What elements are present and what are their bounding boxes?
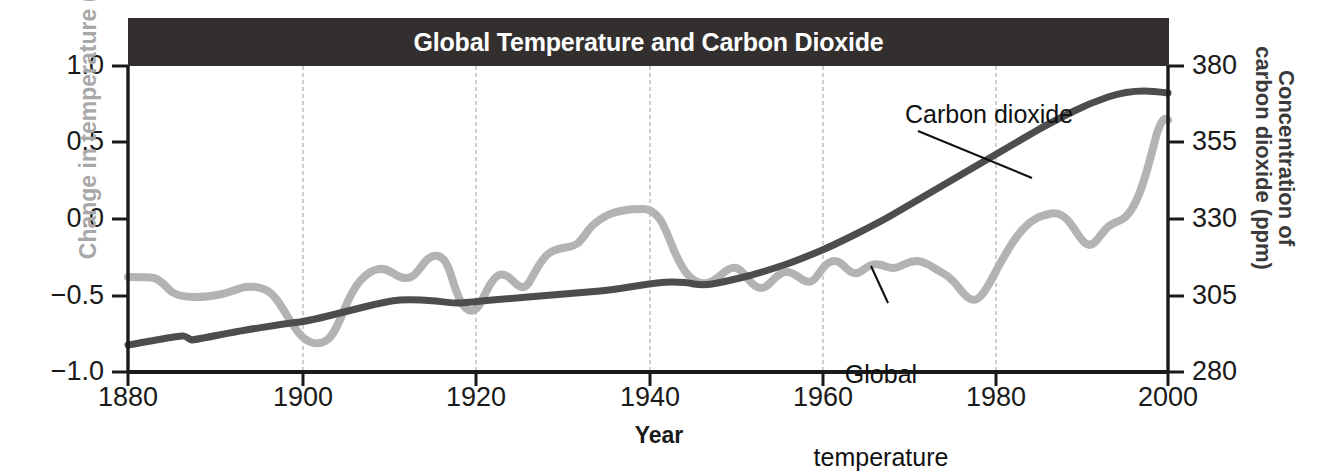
xtick-label-1: 1900 — [243, 382, 363, 413]
chart-title-bar: Global Temperature and Carbon Dioxide — [128, 18, 1169, 66]
y-axis-label-right-line1: Concentration of — [1275, 43, 1298, 273]
leader-line-co2 — [918, 131, 1032, 178]
y-axis-label-right: Concentration of carbon dioxide (ppm) — [1252, 43, 1298, 273]
chart-figure: Global Temperature and Carbon Dioxide 1.… — [0, 0, 1318, 473]
series-global-temperature — [128, 119, 1168, 344]
annotation-global-temperature: Global temperature — [806, 306, 956, 473]
x-axis-label: Year — [0, 422, 1318, 449]
annotation-carbon-dioxide: Carbon dioxide — [905, 101, 1073, 129]
annotation-global-temperature-line2: temperature — [806, 444, 956, 472]
page-title: Global Temperature and Carbon Dioxide — [414, 28, 884, 57]
ytick-label-right-3: 305 — [1192, 280, 1262, 311]
xtick-label-6: 2000 — [1108, 382, 1228, 413]
xtick-label-3: 1940 — [590, 382, 710, 413]
xtick-label-0: 1880 — [68, 382, 188, 413]
y-axis-label-left: Change in temperature (°F) — [75, 0, 102, 262]
y-axis-label-right-line2: carbon dioxide (ppm) — [1252, 43, 1275, 273]
ytick-label-left-3: −0.5 — [21, 280, 104, 311]
annotation-global-temperature-line1: Global — [806, 361, 956, 389]
xtick-label-2: 1920 — [416, 382, 536, 413]
leader-line-temperature — [871, 266, 888, 303]
